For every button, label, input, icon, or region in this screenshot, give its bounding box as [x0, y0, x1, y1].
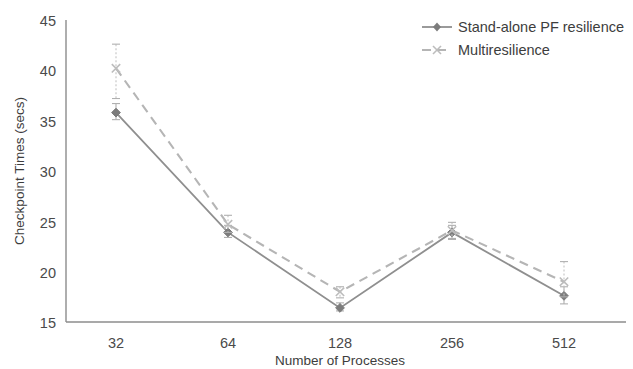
- x-tick-label: 256: [440, 335, 464, 351]
- y-tick-label: 35: [40, 114, 56, 130]
- y-axis-title: Checkpoint Times (secs): [12, 97, 27, 245]
- y-tick-label: 25: [40, 215, 56, 231]
- x-tick-label: 128: [328, 335, 352, 351]
- y-tick-label: 20: [40, 265, 56, 281]
- legend-swatch-stand-alone: [422, 23, 452, 32]
- y-tick-label: 40: [40, 63, 56, 79]
- chart-legend: Stand-alone PF resilience Multiresilienc…: [422, 19, 624, 58]
- data-series-layer: [112, 44, 569, 312]
- line-chart: 45 40 35 30 25 20 15 Checkpoint Times (s…: [0, 0, 633, 369]
- chart-figure: 45 40 35 30 25 20 15 Checkpoint Times (s…: [0, 0, 633, 369]
- x-tick-label: 32: [108, 335, 124, 351]
- x-tick-label: 64: [220, 335, 236, 351]
- series-stand-alone: [112, 104, 569, 313]
- legend-label-multiresilience: Multiresilience: [458, 42, 550, 58]
- x-axis-title: Number of Processes: [275, 353, 405, 368]
- y-tick-label: 30: [40, 164, 56, 180]
- y-tick-label: 45: [40, 13, 56, 29]
- series-line: [116, 113, 564, 308]
- data-point-marker: [560, 291, 569, 300]
- x-tick-label: 512: [552, 335, 576, 351]
- legend-swatch-multiresilience: [422, 46, 452, 54]
- legend-label-stand-alone: Stand-alone PF resilience: [458, 19, 624, 35]
- y-tick-label: 15: [40, 315, 56, 331]
- data-point-marker: [336, 288, 344, 296]
